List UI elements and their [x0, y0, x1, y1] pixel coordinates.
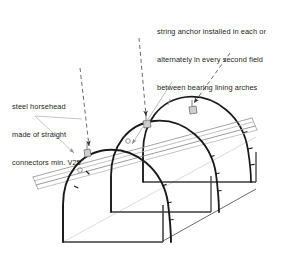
- horsehead-line-2: made of straight: [12, 130, 81, 139]
- string-anchor-annotation: string anchor installed in each or alter…: [157, 8, 266, 111]
- leader-string-anchor-1: [139, 38, 146, 116]
- string-anchor-line-1: string anchor installed in each or: [157, 27, 266, 36]
- horsehead-line-3: connectors min. V25: [12, 158, 81, 167]
- anchor-plate-middle: [126, 139, 131, 144]
- steel-horsehead-annotation: steel horsehead made of straight connect…: [12, 83, 81, 186]
- horsehead-line-1: steel horsehead: [12, 102, 81, 111]
- arch-front-base: [63, 205, 163, 242]
- string-anchor-line-2: alternately in every second field: [157, 55, 266, 64]
- drawing-page: string anchor installed in each or alter…: [0, 0, 291, 261]
- string-anchor-1: [84, 143, 91, 157]
- leader-horsehead-dashed: [80, 68, 89, 146]
- string-anchor-line-3: between bearing lining arches: [157, 83, 266, 92]
